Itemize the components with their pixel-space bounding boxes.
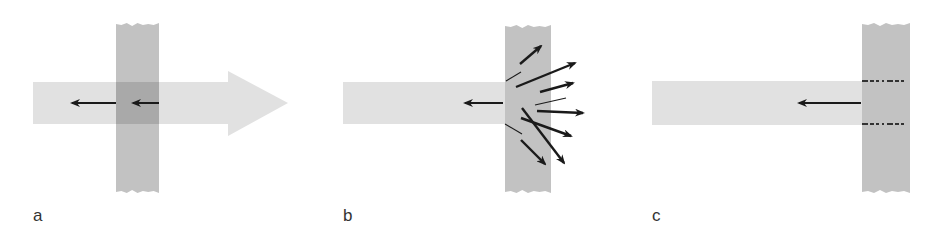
diagram-canvas [0,0,932,247]
panel-label-b: b [343,207,352,224]
panel-a [33,23,288,193]
beam-arrow [33,71,288,136]
panel-label-c: c [652,207,661,224]
barrier [505,25,551,193]
panel-label-a: a [33,207,42,224]
panel-c [652,23,910,193]
barrier [862,23,910,193]
figure: a b c [0,0,932,247]
panel-b [343,25,583,193]
